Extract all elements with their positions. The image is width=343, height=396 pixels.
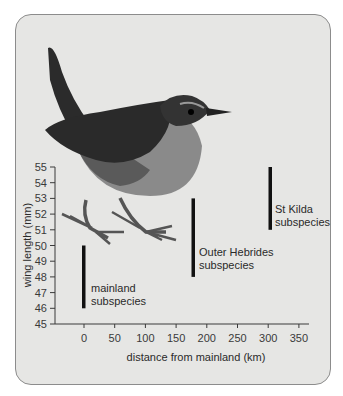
svg-text:50: 50 bbox=[109, 332, 121, 344]
svg-text:45: 45 bbox=[35, 318, 47, 330]
label-outer-hebrides: Outer Hebrides bbox=[199, 246, 274, 258]
svg-text:250: 250 bbox=[228, 332, 246, 344]
bar-outer-hebrides bbox=[192, 198, 196, 277]
svg-text:53: 53 bbox=[35, 192, 47, 204]
x-axis-title: distance from mainland (km) bbox=[127, 351, 266, 363]
label-mainland-2: subspecies bbox=[91, 295, 147, 307]
svg-text:46: 46 bbox=[35, 302, 47, 314]
svg-text:0: 0 bbox=[81, 332, 87, 344]
y-axis bbox=[50, 167, 55, 324]
y-tick-labels: 55 54 53 52 51 50 49 48 47 46 45 bbox=[35, 161, 47, 330]
svg-text:49: 49 bbox=[35, 255, 47, 267]
y-axis-title: wing length (mm) bbox=[21, 203, 33, 288]
bar-st-kilda bbox=[269, 167, 273, 230]
svg-text:200: 200 bbox=[198, 332, 216, 344]
svg-text:350: 350 bbox=[290, 332, 308, 344]
svg-text:100: 100 bbox=[136, 332, 154, 344]
chart-svg: 55 54 53 52 51 50 49 48 47 46 45 0 50 10… bbox=[0, 0, 343, 396]
label-outer-hebrides-2: subspecies bbox=[199, 259, 255, 271]
svg-text:55: 55 bbox=[35, 161, 47, 173]
svg-text:48: 48 bbox=[35, 271, 47, 283]
svg-text:50: 50 bbox=[35, 240, 47, 252]
svg-text:47: 47 bbox=[35, 287, 47, 299]
label-st-kilda: St Kilda bbox=[275, 203, 314, 215]
label-mainland: mainland bbox=[91, 282, 136, 294]
bar-mainland bbox=[82, 246, 86, 309]
svg-text:51: 51 bbox=[35, 224, 47, 236]
svg-text:150: 150 bbox=[167, 332, 185, 344]
svg-text:300: 300 bbox=[259, 332, 277, 344]
svg-text:52: 52 bbox=[35, 208, 47, 220]
svg-text:54: 54 bbox=[35, 177, 47, 189]
x-axis bbox=[55, 324, 309, 328]
series-labels: mainland subspecies Outer Hebrides subsp… bbox=[91, 203, 331, 307]
label-st-kilda-2: subspecies bbox=[275, 216, 331, 228]
x-tick-labels: 0 50 100 150 200 250 300 350 bbox=[81, 332, 308, 344]
wren-bird-icon bbox=[45, 48, 232, 245]
